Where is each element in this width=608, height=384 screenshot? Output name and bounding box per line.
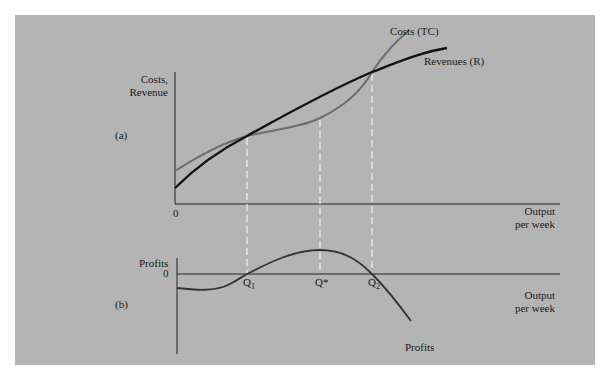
x-axis-label-bottom: Output per week: [480, 289, 555, 315]
costs-revenue-line2: Revenue: [110, 86, 168, 99]
panel-b-label: (b): [115, 298, 128, 311]
costs-revenue-line1: Costs,: [110, 73, 168, 86]
x-axis-label-top: Output per week: [480, 205, 555, 231]
revenues-r-curve: [175, 48, 447, 188]
panel-a-label: (a): [115, 129, 127, 142]
costs-tc-label: Costs (TC): [390, 25, 439, 38]
profits-curve-label: Profits: [405, 341, 434, 354]
output-line1: Output: [480, 205, 555, 218]
q2-text: Q: [368, 276, 376, 288]
q1-label: Q1: [243, 276, 255, 293]
q1-sub: 1: [251, 282, 255, 291]
q2-sub: 2: [376, 282, 380, 291]
output-line1-b: Output: [480, 289, 555, 302]
chart-svg: [0, 0, 608, 384]
y-axis-label-top: Costs, Revenue: [110, 73, 168, 99]
costs-tc-curve: [175, 30, 409, 171]
q2-label: Q2: [368, 276, 380, 293]
qstar-label: Q*: [315, 276, 328, 289]
q1-text: Q: [243, 276, 251, 288]
output-line2: per week: [480, 218, 555, 231]
origin-label: 0: [173, 207, 179, 220]
output-line2-b: per week: [480, 302, 555, 315]
revenues-r-label: Revenues (R): [424, 55, 484, 68]
zero-label: 0: [163, 267, 169, 280]
